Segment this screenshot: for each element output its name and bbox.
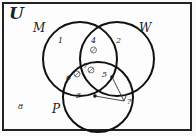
region-4-label: 4	[90, 36, 96, 45]
region-5-label: 5	[102, 70, 107, 79]
region-2-label: 2	[115, 36, 121, 45]
region-6-label: 6	[66, 73, 71, 82]
region-3-label: 3	[76, 91, 81, 100]
venn-diagram-canvas: U M W P 1 2 3 4 5 6 7 8 ?	[0, 0, 196, 136]
region-8-label: 8	[18, 102, 23, 111]
universal-set-label: U	[9, 3, 25, 23]
question-label: ?	[127, 97, 132, 106]
venn-diagram: U M W P 1 2 3 4 5 6 7 8 ?	[0, 0, 196, 136]
set-p-label: P	[51, 102, 61, 116]
region-1-label: 1	[58, 36, 63, 45]
set-m-label: M	[32, 21, 46, 35]
universal-set-frame	[3, 3, 191, 130]
set-w-label: W	[139, 21, 153, 35]
